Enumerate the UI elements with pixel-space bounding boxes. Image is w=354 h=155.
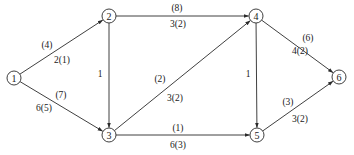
node-label: 5	[255, 130, 260, 141]
node-4: 4	[249, 9, 263, 23]
node-5: 5	[250, 128, 264, 142]
network-graph-svg: (4)2(1)(7)6(5)1(8)3(2)(2)3(2)(1)6(3)1(6)…	[0, 0, 354, 155]
edge-weight-label: 1	[98, 69, 103, 79]
edge-capacity-label: (3)	[282, 97, 293, 108]
node-2: 2	[102, 9, 116, 23]
node-3: 3	[102, 128, 116, 142]
network-diagram: (4)2(1)(7)6(5)1(8)3(2)(2)3(2)(1)6(3)1(6)…	[0, 0, 354, 155]
node-label: 2	[107, 11, 112, 22]
edge-4-5	[256, 23, 257, 128]
edge-capacity-label: (6)	[302, 33, 313, 44]
node-1: 1	[7, 71, 21, 85]
edge-capacity-label: (7)	[55, 90, 66, 101]
edge-flow-label: 6(3)	[170, 140, 186, 151]
edge-flow-label: 4(2)	[292, 46, 308, 57]
node-6: 6	[332, 70, 346, 84]
node-label: 1	[12, 73, 17, 84]
edge-1-2	[20, 20, 103, 74]
edge-flow-label: 3(2)	[292, 114, 308, 125]
node-label: 3	[107, 130, 112, 141]
edges-layer	[20, 16, 333, 135]
edge-labels-layer: (4)2(1)(7)6(5)1(8)3(2)(2)3(2)(1)6(3)1(6)…	[36, 3, 313, 151]
edge-3-4	[114, 21, 250, 131]
edge-flow-label: 3(2)	[167, 93, 183, 104]
edge-weight-label: 1	[246, 69, 251, 79]
edge-capacity-label: (1)	[172, 123, 183, 134]
edge-capacity-label: (8)	[171, 3, 182, 14]
node-label: 6	[337, 72, 342, 83]
edge-capacity-label: (4)	[41, 40, 52, 51]
node-label: 4	[254, 11, 259, 22]
edge-flow-label: 2(1)	[54, 55, 70, 66]
edge-capacity-label: (2)	[154, 74, 165, 85]
edge-flow-label: 6(5)	[36, 103, 52, 114]
edge-flow-label: 3(2)	[170, 19, 186, 30]
